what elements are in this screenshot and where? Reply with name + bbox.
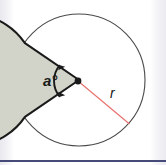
circle-sector-diagram: a° r (0, 0, 166, 165)
center-dot-icon (75, 78, 82, 85)
angle-label: a° (43, 72, 58, 89)
bottom-rule (0, 160, 166, 162)
figure-root: a° r (0, 0, 166, 165)
